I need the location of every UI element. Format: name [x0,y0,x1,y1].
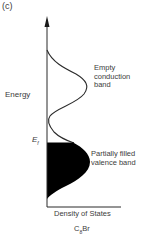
density-of-states-plot [0,0,148,238]
valence-band-label: Partially filled valence band [91,150,136,167]
dos-curve [47,50,87,143]
valence-band-filled-region [47,143,90,199]
dos-axis-label: Density of States [54,210,111,219]
fermi-level-label: Ef [32,136,39,145]
energy-axis-label: Energy [5,91,30,100]
conduction-band-label: Empty conduction band [94,64,130,90]
axis-arrow-icon [45,16,50,27]
compound-label: C8Br [74,225,90,234]
